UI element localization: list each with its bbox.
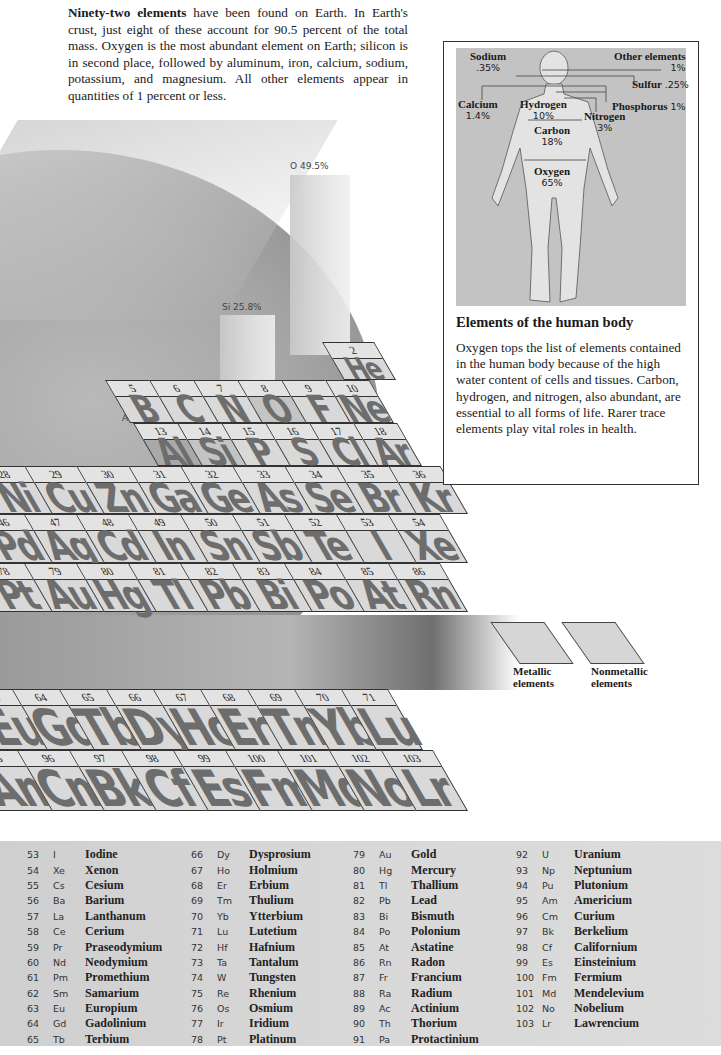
metallic-legend-label: Metallicelements: [513, 665, 554, 689]
element-symbol: Np: [542, 865, 574, 876]
element-list-row: 83BiBismuth: [353, 909, 479, 924]
element-number: 74: [191, 972, 217, 983]
element-name: Thulium: [249, 893, 294, 908]
element-name: Dysprosium: [249, 847, 311, 862]
element-list-row: 88RaRadium: [353, 986, 479, 1001]
element-list: 53IIodine54XeXenon55CsCesium56BaBarium57…: [0, 841, 721, 1046]
element-symbol: Ba: [53, 895, 85, 906]
element-number: 71: [191, 926, 217, 937]
element-number: 94: [516, 880, 542, 891]
element-list-row: 67HoHolmium: [191, 862, 311, 877]
element-number: 88: [353, 988, 379, 999]
element-number: 78: [191, 1034, 217, 1045]
element-name: Erbium: [249, 878, 289, 893]
element-symbol: Nd: [53, 957, 85, 968]
silicon-abundance-label: Si 25.8%: [222, 302, 262, 312]
element-symbol: Hf: [217, 942, 249, 953]
element-number: 70: [191, 911, 217, 922]
element-list-row: 70YbYtterbium: [191, 909, 311, 924]
element-symbol: No: [542, 1003, 574, 1014]
element-name: Rhenium: [249, 986, 296, 1001]
label-other-elements: Other elements1%: [614, 50, 686, 74]
element-name: Terbium: [85, 1032, 129, 1047]
element-symbol: I: [53, 849, 85, 860]
element-number: 72: [191, 942, 217, 953]
element-symbol: Au: [379, 849, 411, 860]
element-name: Francium: [411, 970, 462, 985]
element-list-row: 75ReRhenium: [191, 986, 311, 1001]
element-list-row: 84PoPolonium: [353, 924, 479, 939]
element-symbol: La: [53, 911, 85, 922]
element-number: 95: [516, 895, 542, 906]
element-name: Osmium: [249, 1001, 293, 1016]
element-number: 75: [191, 988, 217, 999]
element-number: 90: [353, 1018, 379, 1029]
element-name: Fermium: [574, 970, 622, 985]
element-name: Lead: [411, 893, 437, 908]
ptable-row-period-4: 28Ni29Cu30Zn31Ga32Ge33As34Se35Br36Kr: [0, 466, 468, 514]
element-list-row: 101MdMendelevium: [516, 986, 644, 1001]
element-symbol: Ho: [217, 865, 249, 876]
element-list-row: 92UUranium: [516, 847, 644, 862]
element-list-row: 102NoNobelium: [516, 1001, 644, 1016]
element-symbol: Dy: [217, 849, 249, 860]
element-name: Hafnium: [249, 940, 295, 955]
element-name: Mendelevium: [574, 986, 644, 1001]
element-number: 99: [516, 957, 542, 968]
element-list-row: 62SmSamarium: [27, 986, 162, 1001]
element-list-column-1: 53IIodine54XeXenon55CsCesium56BaBarium57…: [27, 847, 162, 1047]
element-symbol: Th: [379, 1018, 411, 1029]
label-calcium: Calcium1.4%: [458, 98, 498, 122]
element-symbol: Pm: [53, 972, 85, 983]
element-symbol: Ac: [379, 1003, 411, 1014]
element-number: 85: [353, 942, 379, 953]
element-symbol: Rn: [379, 957, 411, 968]
element-list-row: 64GdGadolinium: [27, 1016, 162, 1031]
element-list-row: 69TmThulium: [191, 893, 311, 908]
element-symbol: Er: [217, 880, 249, 891]
element-name: Holmium: [249, 863, 298, 878]
element-name: Lutetium: [249, 924, 297, 939]
element-symbol: Fm: [542, 972, 574, 983]
element-list-row: 55CsCesium: [27, 878, 162, 893]
element-list-row: 93NpNeptunium: [516, 862, 644, 877]
element-name: Neodymium: [85, 955, 148, 970]
element-name: Uranium: [574, 847, 621, 862]
ptable-row-period-5: 46Pd47Ag48Cd49In50Sn51Sb52Te53I54Xe: [0, 514, 468, 563]
element-name: Thorium: [411, 1016, 457, 1031]
element-list-row: 99EsEinsteinium: [516, 955, 644, 970]
element-list-row: 80HgMercury: [353, 862, 479, 877]
element-number: 89: [353, 1003, 379, 1014]
element-name: Radium: [411, 986, 452, 1001]
element-list-row: 57LaLanthanum: [27, 909, 162, 924]
human-body-sidebar: Sodium.35% Calcium1.4% Hydrogen10% Carbo…: [443, 41, 699, 485]
element-symbol: Ta: [217, 957, 249, 968]
element-number: 97: [516, 926, 542, 937]
element-list-row: 68ErErbium: [191, 878, 311, 893]
element-list-row: 59PrPraseodymium: [27, 939, 162, 954]
element-number: 79: [353, 849, 379, 860]
element-symbol: Re: [217, 988, 249, 999]
element-number: 81: [353, 880, 379, 891]
element-name: Astatine: [411, 940, 454, 955]
element-number: 54: [27, 865, 53, 876]
element-list-row: 79AuGold: [353, 847, 479, 862]
element-symbol: Yb: [217, 911, 249, 922]
element-name: Nobelium: [574, 1001, 624, 1016]
element-list-row: 56BaBarium: [27, 893, 162, 908]
element-name: Gadolinium: [85, 1016, 146, 1031]
element-name: Tungsten: [249, 970, 296, 985]
element-name: Barium: [85, 893, 124, 908]
human-body-text: Oxygen tops the list of elements contain…: [456, 340, 688, 437]
element-name: Lanthanum: [85, 909, 146, 924]
element-list-row: 54XeXenon: [27, 862, 162, 877]
label-sulfur: Sulfur .25%: [632, 78, 689, 91]
element-name: Berkelium: [574, 924, 628, 939]
element-number: 67: [191, 865, 217, 876]
element-number: 84: [353, 926, 379, 937]
element-list-row: 91PaProtactinium: [353, 1032, 479, 1047]
element-name: Mercury: [411, 863, 456, 878]
ptable-row-lanthanides: 63Eu64Gd65Tb66Dy67Ho68Er69Tm70Yb71Lu: [0, 689, 423, 750]
element-list-row: 73TaTantalum: [191, 955, 311, 970]
element-list-row: 98CfCalifornium: [516, 939, 644, 954]
